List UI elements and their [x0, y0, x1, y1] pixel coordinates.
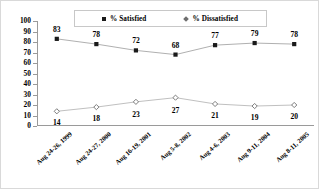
square-marker-icon	[94, 42, 98, 46]
data-label-dissatisfied: 14	[53, 119, 61, 127]
x-tick-label: Aug 24-26, 1999	[35, 131, 73, 166]
data-label-satisfied: 78	[290, 31, 298, 39]
data-label-dissatisfied: 20	[290, 113, 298, 121]
diamond-marker-icon	[94, 105, 99, 110]
x-tick-label: Aug 4-6, 2003	[198, 131, 231, 162]
x-tick-label: Aug 5-8, 2002	[159, 131, 192, 162]
square-marker-icon	[173, 53, 177, 57]
y-axis-line	[37, 21, 38, 126]
data-label-dissatisfied: 18	[93, 115, 101, 123]
diamond-marker-icon	[133, 99, 138, 104]
diamond-marker-icon	[292, 102, 297, 107]
data-label-satisfied: 72	[132, 37, 140, 45]
data-label-dissatisfied: 27	[172, 107, 180, 115]
diamond-marker-icon	[252, 103, 257, 108]
square-marker-icon	[253, 41, 257, 45]
data-label-satisfied: 83	[53, 26, 61, 34]
square-marker-icon	[213, 43, 217, 47]
data-label-satisfied: 78	[93, 31, 101, 39]
line-chart: % Satisfied % Dissatisfied 1009080706050…	[0, 0, 319, 189]
x-tick-label: Aug 8-11, 2005	[275, 131, 310, 164]
data-label-satisfied: 77	[211, 32, 219, 40]
diamond-marker-icon	[173, 95, 178, 100]
x-tick-label: Aug 9-11, 2004	[236, 131, 271, 164]
x-tick-label: Aug 16-19, 2001	[114, 131, 152, 166]
data-label-satisfied: 68	[172, 42, 180, 50]
square-marker-icon	[134, 48, 138, 52]
x-axis-line	[37, 125, 314, 126]
data-label-satisfied: 79	[251, 30, 259, 38]
data-label-dissatisfied: 19	[251, 114, 259, 122]
legend-item-satisfied: % Satisfied	[102, 15, 146, 23]
chart-legend: % Satisfied % Dissatisfied	[74, 10, 267, 27]
legend-label-satisfied: % Satisfied	[110, 15, 146, 23]
diamond-marker-icon	[212, 101, 217, 106]
square-marker-icon	[292, 42, 296, 46]
data-label-dissatisfied: 21	[211, 112, 219, 120]
legend-item-dissatisfied: % Dissatisfied	[184, 15, 238, 23]
legend-label-dissatisfied: % Dissatisfied	[192, 15, 238, 23]
square-marker-icon	[102, 17, 106, 21]
diamond-marker-icon	[54, 109, 59, 114]
diamond-marker-icon	[184, 16, 190, 22]
square-marker-icon	[55, 37, 59, 41]
x-tick-label: Aug 24-27, 2000	[75, 131, 113, 166]
data-label-dissatisfied: 23	[132, 111, 140, 119]
